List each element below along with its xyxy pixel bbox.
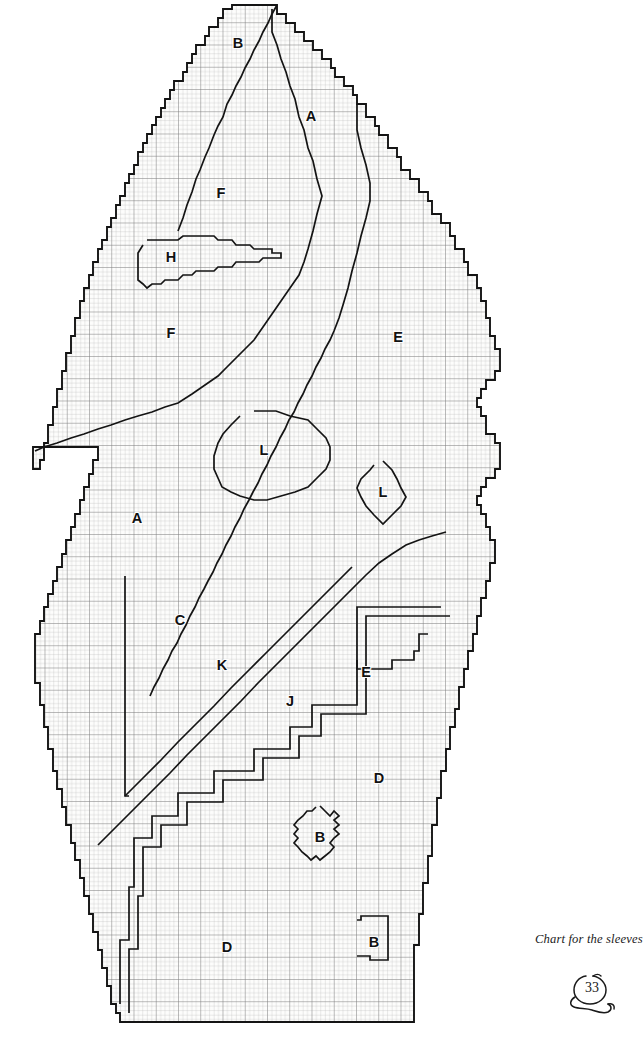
label-a-top: A [306,108,317,124]
page-number: 33 [585,980,599,996]
label-l-large: L [260,442,269,458]
label-f-lower: F [167,325,176,341]
label-c: C [175,612,186,628]
label-e-right: E [393,329,403,345]
label-b-bottom: B [369,934,379,950]
label-j: J [286,693,294,709]
label-e-notch: E [361,664,371,680]
label-f-upper: F [217,185,226,201]
label-b-diamond: B [315,829,325,845]
label-a-mid: A [132,510,143,526]
label-d-bottom: D [222,939,232,955]
label-d-right: D [374,770,384,786]
chart-caption: Chart for the sleeves [535,932,643,947]
label-k: K [217,657,228,673]
label-b-top: B [233,35,243,51]
label-h: H [166,249,176,265]
label-l-small: L [379,484,388,500]
